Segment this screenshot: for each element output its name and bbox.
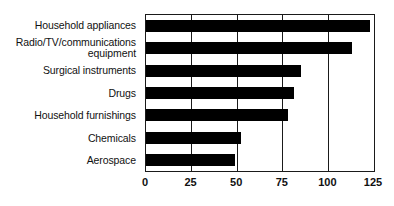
bar bbox=[146, 132, 241, 144]
plot-area bbox=[145, 14, 375, 172]
category-axis-labels: Household appliances Radio/TV/communicat… bbox=[0, 14, 141, 172]
category-label: Household furnishings bbox=[0, 105, 141, 128]
category-label: Chemicals bbox=[0, 127, 141, 150]
bar-slot bbox=[146, 104, 374, 126]
bar bbox=[146, 65, 301, 77]
x-tick-label: 25 bbox=[184, 176, 196, 188]
bar-slot bbox=[146, 149, 374, 171]
x-tick-label: 125 bbox=[364, 176, 382, 188]
bar-chart: Household appliances Radio/TV/communicat… bbox=[0, 0, 394, 206]
category-label: Drugs bbox=[0, 82, 141, 105]
bar bbox=[146, 87, 294, 99]
bar-slot bbox=[146, 37, 374, 59]
bar-slot bbox=[146, 82, 374, 104]
x-axis-tick-labels: 0255075100125 bbox=[145, 176, 375, 194]
bar-slot bbox=[146, 60, 374, 82]
x-tick-label: 100 bbox=[318, 176, 336, 188]
category-label: Surgical instruments bbox=[0, 60, 141, 83]
bar bbox=[146, 109, 288, 121]
x-tick-label: 75 bbox=[276, 176, 288, 188]
category-label: Radio/TV/communications equipment bbox=[0, 37, 141, 60]
x-tick-label: 0 bbox=[142, 176, 148, 188]
category-label: Household appliances bbox=[0, 14, 141, 37]
bar-slot bbox=[146, 126, 374, 148]
category-label: Aerospace bbox=[0, 150, 141, 173]
bar bbox=[146, 42, 352, 54]
bar bbox=[146, 20, 370, 32]
bar bbox=[146, 154, 235, 166]
x-tick-label: 50 bbox=[230, 176, 242, 188]
bar-slot bbox=[146, 15, 374, 37]
bars-layer bbox=[146, 15, 374, 171]
